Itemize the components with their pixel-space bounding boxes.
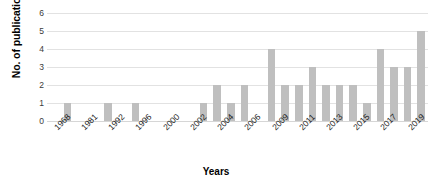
x-tick-slot [387, 121, 401, 165]
bar-slot [169, 13, 183, 121]
x-tick-slot [142, 121, 156, 165]
bar-slot [197, 13, 211, 121]
y-axis-tick-label: 4 [28, 45, 44, 54]
x-tick-slot: 2011 [292, 121, 306, 165]
x-tick-slot [169, 121, 183, 165]
x-tick-slot [360, 121, 374, 165]
bar-slot [401, 13, 415, 121]
x-tick-slot [115, 121, 129, 165]
x-tick-slot: 2006 [238, 121, 252, 165]
bar [295, 85, 303, 121]
bar-series [47, 13, 428, 121]
bar-slot [61, 13, 75, 121]
x-tick-slot: 2000 [156, 121, 170, 165]
bar-slot [292, 13, 306, 121]
y-axis-tick-labels: 0123456 [28, 8, 44, 121]
bar-slot [238, 13, 252, 121]
x-tick-slot [278, 121, 292, 165]
bar-slot [251, 13, 265, 121]
y-axis-tick-label: 5 [28, 27, 44, 36]
x-tick-slot: 1992 [101, 121, 115, 165]
x-tick-slot [306, 121, 320, 165]
y-axis-tick-label: 3 [28, 63, 44, 72]
x-tick-slot [197, 121, 211, 165]
bar-slot [319, 13, 333, 121]
bar [349, 85, 357, 121]
y-axis-tick-label: 2 [28, 81, 44, 90]
bar-slot [74, 13, 88, 121]
bar [377, 49, 385, 121]
x-tick-slot [414, 121, 428, 165]
bar-slot [278, 13, 292, 121]
x-tick-slot: 2015 [346, 121, 360, 165]
bar-slot [224, 13, 238, 121]
bar [417, 31, 425, 121]
bar-slot [101, 13, 115, 121]
y-axis-tick-label: 1 [28, 99, 44, 108]
x-tick-slot: 1996 [129, 121, 143, 165]
bar-slot [88, 13, 102, 121]
bar-slot [265, 13, 279, 121]
x-tick-slot [224, 121, 238, 165]
x-tick-slot: 1981 [74, 121, 88, 165]
bar-slot [374, 13, 388, 121]
bar-slot [210, 13, 224, 121]
publications-bar-chart: No. of publications 0123456 196819811992… [0, 0, 432, 186]
x-tick-slot: 2017 [374, 121, 388, 165]
bar-slot [183, 13, 197, 121]
bar [241, 85, 249, 121]
x-tick-slot [333, 121, 347, 165]
bar-slot [346, 13, 360, 121]
x-axis-tick-labels: 1968198119921996200020022004200620092011… [47, 121, 428, 165]
y-axis-tick-label: 0 [28, 117, 44, 126]
x-tick-slot [61, 121, 75, 165]
bar-slot [333, 13, 347, 121]
bar [404, 67, 412, 121]
bar-slot [387, 13, 401, 121]
bar [268, 49, 276, 121]
bar-slot [129, 13, 143, 121]
bar-slot [360, 13, 374, 121]
bar [322, 85, 330, 121]
y-axis-tick-label: 6 [28, 9, 44, 18]
bar-slot [47, 13, 61, 121]
x-tick-slot: 2009 [265, 121, 279, 165]
bar-slot [306, 13, 320, 121]
x-tick-slot [88, 121, 102, 165]
x-tick-slot: 2004 [210, 121, 224, 165]
x-tick-slot: 2002 [183, 121, 197, 165]
x-tick-slot: 1968 [47, 121, 61, 165]
x-tick-slot: 2013 [319, 121, 333, 165]
x-tick-slot: 2019 [401, 121, 415, 165]
bar [213, 85, 221, 121]
plot-area [47, 13, 428, 121]
y-axis-title: No. of publications [10, 0, 22, 92]
bar-slot [156, 13, 170, 121]
bar-slot [142, 13, 156, 121]
bar-slot [115, 13, 129, 121]
x-tick-slot [251, 121, 265, 165]
x-axis-title: Years [0, 166, 432, 177]
bar-slot [414, 13, 428, 121]
